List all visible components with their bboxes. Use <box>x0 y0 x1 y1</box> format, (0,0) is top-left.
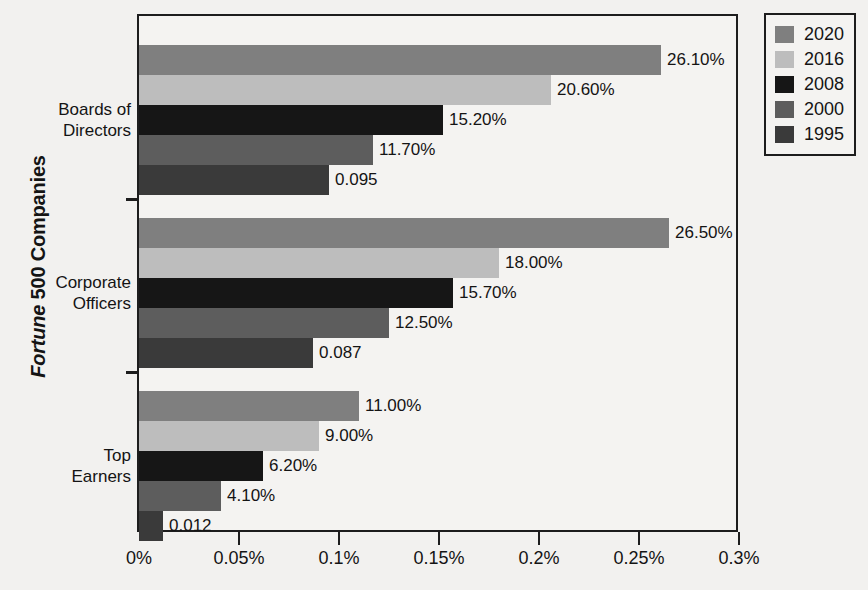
x-tick-label-2: 0.1% <box>318 548 359 569</box>
bar-2020-2 <box>139 391 359 421</box>
legend-label: 2000 <box>804 99 844 120</box>
bar-2000-0 <box>139 135 373 165</box>
bar-1995-0 <box>139 165 329 195</box>
bar-2016-0 <box>139 75 551 105</box>
category-label-line: Earners <box>11 466 131 487</box>
x-tick-label-1: 0.05% <box>213 548 264 569</box>
bar-value-label: 0.087 <box>313 343 362 363</box>
legend-swatch-icon <box>775 51 794 68</box>
bar-value-label: 26.50% <box>669 223 733 243</box>
bar-2020-0 <box>139 45 661 75</box>
bar-row: 9.00% <box>139 421 736 451</box>
bar-value-label: 11.00% <box>359 396 421 416</box>
bar-chart-figure: Fortune 500 Companies Boards ofDirectors… <box>0 0 868 590</box>
bar-2008-2 <box>139 451 263 481</box>
x-tick-1 <box>238 532 240 545</box>
x-tick-3 <box>438 532 440 545</box>
bar-row: 18.00% <box>139 248 736 278</box>
category-label-line: Corporate <box>11 272 131 293</box>
legend-swatch-icon <box>775 76 794 93</box>
category-label-1: CorporateOfficers <box>11 272 131 314</box>
legend-item-2020[interactable]: 2020 <box>766 22 854 47</box>
x-tick-label-4: 0.2% <box>518 548 559 569</box>
legend-label: 2016 <box>804 49 844 70</box>
legend-swatch-icon <box>775 126 794 143</box>
bar-value-label: 0.012 <box>163 516 212 536</box>
x-tick-label-6: 0.3% <box>718 548 759 569</box>
plot-area: 26.10%26.50%11.00%20.60%18.00%9.00%15.20… <box>137 14 738 532</box>
bar-value-label: 12.50% <box>389 313 453 333</box>
legend-item-1995[interactable]: 1995 <box>766 122 854 147</box>
bar-row: 4.10% <box>139 481 736 511</box>
x-tick-2 <box>338 532 340 545</box>
category-label-line: Boards of <box>11 99 131 120</box>
category-label-line: Directors <box>11 120 131 141</box>
group-separator-tick-0 <box>126 198 137 201</box>
legend-swatch-icon <box>775 26 794 43</box>
bar-2016-1 <box>139 248 499 278</box>
bar-value-label: 15.70% <box>453 283 517 303</box>
bar-2000-2 <box>139 481 221 511</box>
legend-label: 1995 <box>804 124 844 145</box>
bar-value-label: 11.70% <box>373 140 435 160</box>
bar-row: 11.00% <box>139 391 736 421</box>
x-tick-label-3: 0.15% <box>413 548 464 569</box>
bar-2000-1 <box>139 308 389 338</box>
x-tick-6 <box>738 532 740 545</box>
category-label-line: Top <box>11 445 131 466</box>
bar-value-label: 6.20% <box>263 456 317 476</box>
legend-item-2016[interactable]: 2016 <box>766 47 854 72</box>
bar-row: 15.70% <box>139 278 736 308</box>
x-tick-5 <box>638 532 640 545</box>
bar-1995-2 <box>139 511 163 541</box>
bar-value-label: 26.10% <box>661 50 725 70</box>
bar-2008-1 <box>139 278 453 308</box>
chart-legend: 20202016200820001995 <box>764 13 856 156</box>
bar-row: 0.095 <box>139 165 736 195</box>
bar-row: 12.50% <box>139 308 736 338</box>
category-label-0: Boards ofDirectors <box>11 99 131 141</box>
legend-item-2008[interactable]: 2008 <box>766 72 854 97</box>
bar-value-label: 4.10% <box>221 486 275 506</box>
bar-row: 20.60% <box>139 75 736 105</box>
bar-value-label: 0.095 <box>329 170 378 190</box>
bar-2008-0 <box>139 105 443 135</box>
legend-label: 2020 <box>804 24 844 45</box>
x-tick-4 <box>538 532 540 545</box>
bar-2016-2 <box>139 421 319 451</box>
category-label-2: TopEarners <box>11 445 131 487</box>
bar-value-label: 20.60% <box>551 80 615 100</box>
legend-label: 2008 <box>804 74 844 95</box>
bar-row: 6.20% <box>139 451 736 481</box>
bar-row: 0.087 <box>139 338 736 368</box>
bar-1995-1 <box>139 338 313 368</box>
bar-value-label: 18.00% <box>499 253 563 273</box>
category-axis-labels: Boards ofDirectorsCorporateOfficersTopEa… <box>0 0 131 590</box>
legend-item-2000[interactable]: 2000 <box>766 97 854 122</box>
bar-row: 26.50% <box>139 218 736 248</box>
bar-row: 26.10% <box>139 45 736 75</box>
bar-value-label: 15.20% <box>443 110 507 130</box>
group-separator-tick-1 <box>126 371 137 374</box>
bar-value-label: 9.00% <box>319 426 373 446</box>
bar-2020-1 <box>139 218 669 248</box>
category-label-line: Officers <box>11 293 131 314</box>
bar-row: 11.70% <box>139 135 736 165</box>
x-tick-label-5: 0.25% <box>613 548 664 569</box>
x-tick-label-0: 0% <box>126 548 152 569</box>
bar-row: 15.20% <box>139 105 736 135</box>
legend-swatch-icon <box>775 101 794 118</box>
